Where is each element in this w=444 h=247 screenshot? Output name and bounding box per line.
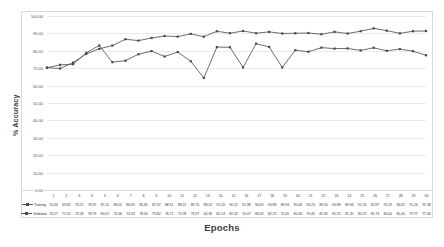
table-cell: 80.00 [381,209,394,218]
data-point-marker [255,32,257,34]
data-table: 1234567891011121314151617181920212223242… [21,191,433,218]
y-axis-tick-label: 70.00 [33,66,43,71]
table-cell: 81.00 [394,209,407,218]
data-point-marker [190,33,192,35]
table-cell: 84.09 [253,209,266,218]
table-cell: 73.46 [111,209,124,218]
table-cell: 81.11 [98,200,111,209]
chart-data-table: 1234567891011121314151617181920212223242… [21,190,433,218]
data-point-marker [59,67,61,69]
table-cell: 80.34 [291,209,304,218]
table-cell: 89.50 [317,200,330,209]
table-cell: 91.38 [240,200,253,209]
table-cell: 82.14 [214,209,227,218]
table-cell: 87.37 [150,200,163,209]
table-cell: 91.26 [407,200,420,209]
chart-screenshot: % Accuracy 0.0010.0020.0030.0040.0050.00… [0,0,444,247]
data-point-marker [281,66,283,68]
table-cell: 90.88 [330,200,343,209]
table-row: Training70.3369.8273.2278.1981.1183.0186… [21,200,433,209]
data-point-marker [85,52,87,54]
table-cell: 90.12 [227,200,240,209]
table-column-header: 15 [227,191,240,200]
table-cell: 79.82 [150,209,163,218]
data-point-marker [59,64,61,66]
table-column-header: 10 [163,191,176,200]
table-column-header: 7 [124,191,137,200]
data-point-marker [242,66,244,68]
y-axis-tick-label: 30.00 [33,135,43,140]
table-column-header: 26 [368,191,381,200]
data-point-marker [373,47,375,49]
data-point-marker [72,63,74,65]
table-cell: 83.07 [98,209,111,218]
y-axis-tick-label: 60.00 [33,83,43,88]
data-point-marker [203,77,205,79]
legend-label: Validation [33,212,47,216]
y-axis-tick-label: 20.00 [33,153,43,158]
data-point-marker [399,32,401,34]
data-point-marker [294,32,296,34]
data-point-marker [150,37,152,39]
table-column-header: 19 [278,191,291,200]
table-cell: 81.82 [317,209,330,218]
table-column-header: 5 [98,191,111,200]
table-cell: 91.20 [214,200,227,209]
table-cell: 90.02 [394,200,407,209]
table-cell: 81.35 [343,209,356,218]
table-column-header: 6 [111,191,124,200]
data-point-marker [412,50,414,52]
legend-marker-icon [22,203,33,206]
data-point-marker [111,44,113,46]
table-column-header: 22 [317,191,330,200]
data-point-marker [216,30,218,32]
table-cell: 89.94 [278,200,291,209]
data-point-marker [177,51,179,53]
table-column-header: 14 [214,191,227,200]
data-point-marker [242,30,244,32]
data-point-marker [386,50,388,52]
table-cell: 83.01 [111,200,124,209]
table-cell: 81.73 [368,209,381,218]
data-point-marker [164,35,166,37]
data-point-marker [177,36,179,38]
table-cell: 78.79 [86,209,99,218]
data-point-marker [425,30,427,32]
table-column-header: 18 [266,191,279,200]
table-cell: 73.22 [73,200,86,209]
table-column-header: 9 [150,191,163,200]
table-column-header: 28 [394,191,407,200]
data-point-marker [307,51,309,53]
data-point-marker [346,47,348,49]
table-cell: 90.23 [304,200,317,209]
table-cell: 91.26 [356,200,369,209]
table-cell: 89.94 [343,200,356,209]
table-cell: 85.85 [137,200,150,209]
data-point-marker [294,49,296,51]
data-point-marker [360,49,362,51]
table-cell: 88.15 [176,200,189,209]
data-point-marker [320,33,322,35]
legend-entry-validation: Validation [21,209,47,218]
y-axis-tick-labels: 0.0010.0020.0030.0040.0050.0060.0070.008… [21,16,45,190]
table-cell: 90.88 [266,200,279,209]
table-cell: 81.25 [330,209,343,218]
data-point-marker [46,67,48,69]
table-column-header: 16 [240,191,253,200]
table-cell: 79.45 [304,209,317,218]
data-point-marker [333,48,335,50]
table-column-header: 1 [47,191,60,200]
data-point-marker [373,27,375,29]
data-point-marker [268,31,270,33]
table-row: Validation70.2771.9272.2878.7983.0773.46… [21,209,433,218]
table-column-header: 12 [188,191,201,200]
data-point-marker [124,60,126,62]
table-cell: 92.87 [368,200,381,209]
legend-marker-icon [21,212,32,215]
y-axis-tick-label: 90.00 [33,31,43,36]
series-lines [47,16,426,190]
data-point-marker [320,47,322,49]
data-point-marker [255,43,257,45]
table-cell: 78.05 [137,209,150,218]
table-cell: 82.02 [227,209,240,218]
